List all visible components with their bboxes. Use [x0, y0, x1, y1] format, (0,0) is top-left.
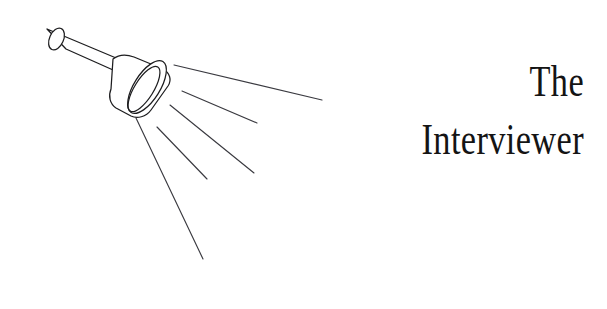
- light-ray-5: [136, 118, 203, 259]
- light-ray-2: [182, 91, 257, 123]
- light-ray-3: [170, 105, 254, 173]
- slide-canvas: The Interviewer: [0, 0, 607, 309]
- light-ray-1: [174, 65, 322, 100]
- flashlight-illustration: [0, 0, 350, 309]
- title-line-the: The: [386, 60, 584, 104]
- light-ray-4: [157, 127, 207, 179]
- title-line-interviewer: Interviewer: [386, 118, 584, 162]
- page-title: The Interviewer: [330, 60, 584, 162]
